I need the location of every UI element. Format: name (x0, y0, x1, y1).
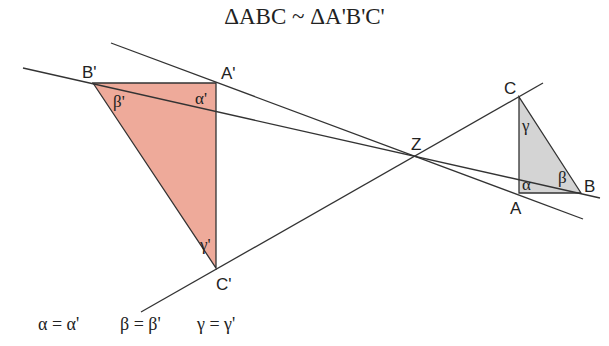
angle-gamma: γ (521, 116, 530, 135)
equality-beta: β = β' (120, 314, 161, 334)
label-b: B (584, 177, 595, 196)
large-triangle-abc-prime (93, 83, 216, 268)
label-a-prime: A' (221, 64, 236, 83)
label-b-prime: B' (82, 63, 97, 82)
angle-alpha-prime: α' (195, 89, 207, 108)
label-z: Z (411, 135, 421, 154)
equality-alpha: α = α' (38, 314, 79, 334)
angle-beta: β (558, 168, 567, 187)
similarity-diagram: B' A' C' Z C B A β' α' γ' γ α β α = α' β… (0, 0, 609, 346)
angle-beta-prime: β' (113, 92, 125, 111)
label-a: A (510, 199, 522, 218)
angle-gamma-prime: γ' (199, 235, 211, 254)
angle-alpha: α (522, 175, 531, 194)
equality-gamma: γ = γ' (196, 314, 235, 334)
label-c-prime: C' (216, 275, 232, 294)
label-c: C (504, 79, 516, 98)
